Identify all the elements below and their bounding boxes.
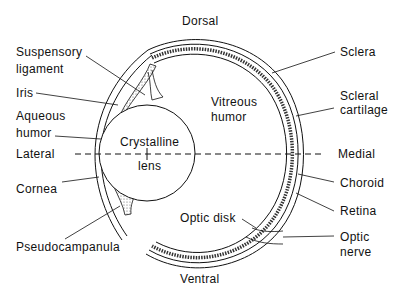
label-suspensory-ligament-2: ligament xyxy=(16,62,64,76)
label-scleral-cartilage-1: Scleral xyxy=(340,89,379,103)
label-ventral: Ventral xyxy=(180,272,219,286)
label-suspensory-ligament-1: Suspensory xyxy=(16,45,82,59)
label-iris: Iris xyxy=(16,86,33,100)
label-dorsal: Dorsal xyxy=(182,14,218,28)
label-optic-nerve-1: Optic xyxy=(340,230,370,244)
label-optic-disk: Optic disk xyxy=(180,211,236,225)
label-aqueous-humor-1: Aqueous xyxy=(16,109,65,123)
label-sclera: Sclera xyxy=(340,45,376,59)
label-vitreous-humor-1: Vitreous xyxy=(211,95,257,109)
label-crystalline-lens-1: Crystalline xyxy=(120,135,179,149)
label-retina: Retina xyxy=(340,204,377,218)
label-vitreous-humor-2: humor xyxy=(211,110,247,124)
label-medial: Medial xyxy=(338,147,375,161)
label-choroid: Choroid xyxy=(340,176,384,190)
label-pseudocampanula: Pseudocampanula xyxy=(16,240,120,254)
label-aqueous-humor-2: humor xyxy=(16,126,52,140)
label-optic-nerve-2: nerve xyxy=(340,245,372,259)
label-crystalline-lens-2: lens xyxy=(138,159,161,173)
label-cornea: Cornea xyxy=(16,182,57,196)
label-scleral-cartilage-2: cartilage xyxy=(340,103,388,117)
label-lateral: Lateral xyxy=(16,147,55,161)
